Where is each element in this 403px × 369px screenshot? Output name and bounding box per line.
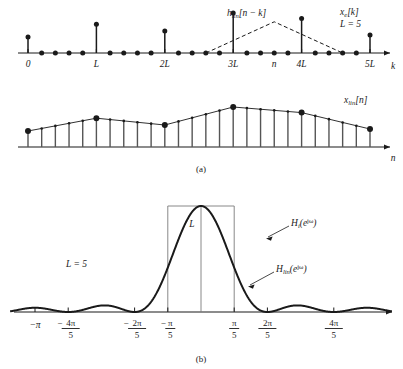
kernel-triangle-path [206,22,343,53]
interpolated-sample-dot [136,121,139,124]
original-sample-dot [162,122,168,128]
x-axis-label-n: n [391,153,396,163]
zero-sample-dot [149,51,154,56]
figure-svg: 0L2L3Ln4L5L hlin[n − k] xe[k] L = 5 k xl… [0,0,403,369]
sample-dot [299,16,304,21]
interpolated-sample-dot [40,127,43,130]
linear-label-arrowhead [248,284,255,288]
figure-container: 0L2L3Ln4L5L hlin[n − k] xe[k] L = 5 k xl… [0,0,403,369]
interpolated-sample-dot [177,120,180,123]
zero-sample-dot [121,51,126,56]
x-tick-label: 5L [365,59,375,69]
interpolated-sample-dot [273,109,276,112]
fraction-denominator: 5 [265,330,270,340]
zero-sample-dot [285,51,290,56]
panel-a-bottom-plot: xlin[n] n (a) [18,95,396,174]
zero-sample-dot [340,51,345,56]
original-sample-dot [367,126,373,132]
interpolated-sample-dot [218,109,221,112]
fraction-numerator: 2π [133,318,143,328]
sample-dot [94,22,99,27]
interpolated-sample-dot [287,110,290,113]
x-tick-label-fraction: −π5 [161,318,176,340]
interpolated-sample-dot [150,122,153,125]
x-tick-label: 4L [297,59,307,69]
zero-sample-dot [354,51,359,56]
fraction-numerator: π [168,318,173,328]
sample-dot-group [25,104,373,134]
zero-sample-dot [176,51,181,56]
interpolated-sample-dot [191,117,194,120]
fraction-numerator: 2π [263,318,273,328]
original-sample-dot [230,104,236,110]
fraction-sign: − [124,318,129,328]
stem-group-expanded [26,11,373,56]
zero-sample-dot [244,51,249,56]
params-label-top: L = 5 [339,19,361,29]
zero-sample-dot [135,51,140,56]
panel-b-frequency-plot: −π−4π5−2π5−π5π52π54π5 L L = 5 Hi(ejω) Hl… [10,206,392,364]
interpolation-envelope [28,107,370,131]
x-axis-label-k: k [391,61,396,71]
x-tick-label: L [93,59,99,69]
ideal-label-leader-line [268,226,289,237]
caption-a: (a) [196,164,206,174]
x-tick-label-fraction: 2π5 [258,318,276,340]
kernel-triangle-dashed [206,22,343,53]
fraction-sign: − [161,318,166,328]
interpolated-sample-dot [205,113,208,116]
params-label-freq: L = 5 [65,259,87,269]
x-tick-label-fraction: π5 [229,318,239,340]
zero-sample-dot [217,51,222,56]
interpolated-sample-dot [355,124,358,127]
fraction-denominator: 5 [68,330,73,340]
x-tick-label: 0 [26,59,31,69]
x-axis-arrow-top [384,51,390,56]
interpolated-sample-dot [81,119,84,122]
fraction-denominator: 5 [232,330,237,340]
zero-sample-dot [80,51,85,56]
ideal-response-label: Hi(ejω) [290,217,316,229]
ideal-label-arrowhead [266,236,273,240]
interpolated-sample-dot [122,120,125,123]
original-sample-dot [299,110,305,116]
kernel-label: hlin[n − k] [227,8,267,19]
zero-sample-dot [326,51,331,56]
x-tick-label: 3L [227,59,238,69]
sample-dot [368,33,373,38]
x-tick-label: n [272,59,277,69]
zero-sample-dot [67,51,72,56]
x-tick-label-fraction: −4π5 [57,318,80,340]
fraction-numerator: 4π [66,318,76,328]
stem-group-interpolated [28,107,370,147]
interpolated-sample-dot [341,121,344,124]
signal-label-xe: xe[k] [339,7,359,18]
zero-sample-dot [53,51,58,56]
interpolated-sample-dot [68,122,71,125]
signal-label-xlin: xlin[n] [343,95,368,106]
zero-sample-dot [190,51,195,56]
original-sample-dot [25,128,31,134]
x-tick-label-group-freq: −π−4π5−2π5−π5π52π54π5 [29,318,342,340]
zero-sample-dot [313,51,318,56]
x-tick-label-fraction: −2π5 [124,318,147,340]
x-tick-label-fraction: 4π5 [325,318,343,340]
fraction-denominator: 5 [135,330,140,340]
interpolated-sample-dot [109,118,112,121]
sample-dot [26,35,31,40]
fraction-denominator: 5 [168,330,173,340]
x-tick-label: −π [29,320,40,330]
interpolated-sample-dot [328,118,331,121]
x-axis-arrow-mid [384,145,390,150]
zero-sample-dot [272,51,277,56]
interpolated-sample-dot [314,115,317,118]
caption-b: (b) [196,354,207,364]
zero-sample-dot [39,51,44,56]
zero-sample-dot [258,51,263,56]
fraction-denominator: 5 [332,330,337,340]
amplitude-label-L: L [188,219,194,229]
linear-response-label: Hlin(ejω) [275,263,307,275]
zero-sample-dot [108,51,113,56]
fraction-numerator: 4π [329,318,339,328]
interpolated-sample-dot [246,107,249,110]
